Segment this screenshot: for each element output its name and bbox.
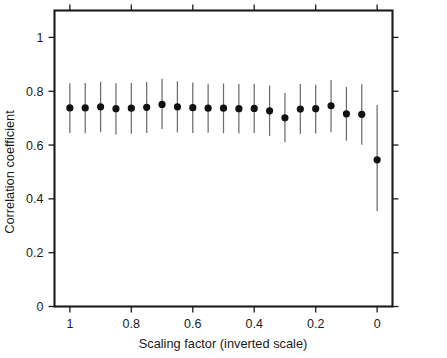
data-point-marker: [205, 105, 212, 112]
data-point-marker: [143, 104, 150, 111]
data-point-marker: [220, 105, 227, 112]
data-point-marker: [128, 105, 135, 112]
x-axis-tick-label: 0.8: [123, 317, 140, 331]
data-point-marker: [174, 103, 181, 110]
x-axis-tick-label: 0.4: [246, 317, 263, 331]
data-point-marker: [358, 111, 365, 118]
y-axis-tick-label: 0.2: [26, 246, 43, 260]
data-point-marker: [235, 105, 242, 112]
y-axis-tick-label: 0.6: [26, 139, 43, 153]
data-point-marker: [158, 101, 165, 108]
data-point-marker: [251, 105, 258, 112]
x-axis-tick-label: 1: [66, 317, 73, 331]
y-axis-tick-label: 0.8: [26, 85, 43, 99]
x-axis-title: Scaling factor (inverted scale): [139, 336, 308, 351]
y-axis-tick-label: 0: [37, 300, 44, 314]
x-axis-tick-label: 0.6: [184, 317, 201, 331]
data-point-marker: [343, 110, 350, 117]
data-point-marker: [281, 114, 288, 121]
data-point-marker: [297, 105, 304, 112]
data-point-marker: [327, 102, 334, 109]
correlation-coefficient-scatter-plot: 10.80.60.40.20 00.20.40.60.81 Scaling fa…: [0, 0, 447, 358]
plot-background: [0, 0, 447, 358]
data-point-marker: [266, 107, 273, 114]
y-axis-tick-label: 1: [37, 31, 44, 45]
data-point-marker: [312, 105, 319, 112]
data-point-marker: [82, 104, 89, 111]
data-point-marker: [189, 104, 196, 111]
y-axis-tick-label: 0.4: [26, 192, 43, 206]
chart-figure: 10.80.60.40.20 00.20.40.60.81 Scaling fa…: [0, 0, 447, 358]
x-axis-tick-label: 0: [374, 317, 381, 331]
data-point-marker: [66, 104, 73, 111]
data-point-marker: [97, 103, 104, 110]
data-point-marker: [374, 156, 381, 163]
x-axis-tick-label: 0.2: [307, 317, 324, 331]
y-axis-title: Correlation coefficient: [2, 110, 17, 234]
data-point-marker: [112, 105, 119, 112]
